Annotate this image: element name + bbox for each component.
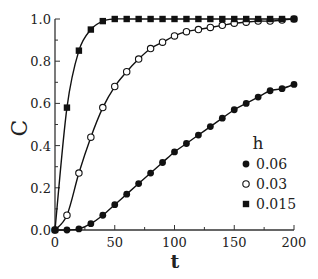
data-point xyxy=(207,123,214,130)
data-point xyxy=(76,170,82,176)
data-point xyxy=(159,16,165,22)
legend-label: 0.015 xyxy=(256,196,296,212)
data-point xyxy=(279,16,285,22)
data-point xyxy=(112,16,118,22)
data-point xyxy=(231,106,238,113)
data-point xyxy=(88,134,94,140)
y-axis-label: C xyxy=(7,120,32,137)
axes: 0501001502000.00.20.40.60.81.0 xyxy=(30,12,306,250)
data-point xyxy=(52,227,58,233)
data-point xyxy=(135,16,141,22)
data-point xyxy=(64,212,70,218)
data-point xyxy=(195,26,201,32)
data-point xyxy=(195,132,202,139)
data-point xyxy=(171,149,178,156)
data-point xyxy=(207,16,213,22)
y-tick-label: 0.4 xyxy=(30,139,51,154)
data-point xyxy=(279,85,286,92)
x-axis-label: t xyxy=(171,250,180,272)
data-point xyxy=(100,18,106,24)
y-tick-label: 0.8 xyxy=(30,54,51,69)
legend: h 0.060.030.015 xyxy=(243,133,296,212)
data-point xyxy=(243,100,250,107)
data-point xyxy=(267,16,273,22)
chart: 0501001502000.00.20.40.60.81.0 C t h 0.0… xyxy=(0,0,318,279)
x-tick-label: 100 xyxy=(162,235,187,250)
data-point xyxy=(255,94,262,101)
data-point xyxy=(124,16,130,22)
y-tick-label: 0.0 xyxy=(30,223,51,238)
data-point xyxy=(147,45,153,51)
data-point xyxy=(219,22,225,28)
data-point xyxy=(99,212,106,219)
data-point xyxy=(147,170,154,177)
y-tick-label: 0.2 xyxy=(30,181,51,196)
data-point xyxy=(64,104,70,110)
data-point xyxy=(76,226,83,233)
legend-title: h xyxy=(253,133,264,153)
x-tick-label: 0 xyxy=(51,235,59,250)
data-point xyxy=(219,115,226,122)
data-point xyxy=(291,16,297,22)
data-point xyxy=(159,159,166,166)
data-point xyxy=(171,33,177,39)
y-tick-label: 1.0 xyxy=(30,12,51,27)
data-point xyxy=(159,39,165,45)
data-point xyxy=(171,16,177,22)
data-point xyxy=(291,81,298,88)
legend-label: 0.06 xyxy=(256,156,287,172)
data-point xyxy=(255,16,261,22)
data-point xyxy=(124,69,130,75)
data-point xyxy=(87,220,94,227)
data-point xyxy=(183,16,189,22)
data-point xyxy=(100,104,106,110)
x-tick-label: 50 xyxy=(106,235,123,250)
data-point xyxy=(195,16,201,22)
data-point xyxy=(76,47,82,53)
legend-label: 0.03 xyxy=(256,176,287,192)
data-point xyxy=(88,26,94,32)
data-point xyxy=(147,16,153,22)
data-point xyxy=(123,191,130,198)
y-tick-label: 0.6 xyxy=(30,96,51,111)
legend-marker-0.015 xyxy=(243,201,249,207)
legend-marker-0.06 xyxy=(243,161,250,168)
data-point xyxy=(64,227,71,234)
data-point xyxy=(219,16,225,22)
data-point xyxy=(135,56,141,62)
legend-marker-0.03 xyxy=(243,181,249,187)
data-point xyxy=(112,83,118,89)
data-point xyxy=(243,16,249,22)
x-tick-label: 200 xyxy=(282,235,307,250)
data-point xyxy=(207,24,213,30)
data-point xyxy=(135,180,142,187)
data-point xyxy=(183,140,190,147)
data-point xyxy=(183,28,189,34)
data-point xyxy=(267,87,274,94)
data-point xyxy=(231,16,237,22)
x-tick-label: 150 xyxy=(222,235,247,250)
data-point xyxy=(111,201,118,208)
